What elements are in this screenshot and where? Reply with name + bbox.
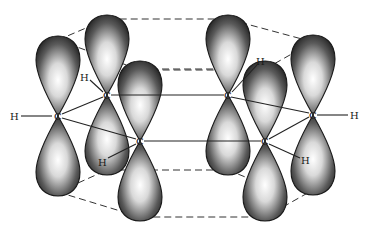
carbon-label: C bbox=[309, 110, 317, 121]
hydrogen-label: H bbox=[10, 111, 19, 122]
hydrogen-label: H bbox=[350, 110, 359, 121]
hydrogen-label: H bbox=[80, 72, 89, 83]
carbon-label: C bbox=[136, 136, 144, 147]
carbon-label: C bbox=[103, 90, 111, 101]
carbon-label: C bbox=[54, 111, 62, 122]
hydrogen-label: H bbox=[98, 157, 107, 168]
pi-orbital-diagram: C C C C C C H H H H H H bbox=[0, 0, 373, 229]
carbon-label: C bbox=[224, 90, 232, 101]
hydrogen-label: H bbox=[301, 155, 310, 166]
carbon-label: C bbox=[261, 136, 269, 147]
hydrogen-label: H bbox=[256, 56, 265, 67]
